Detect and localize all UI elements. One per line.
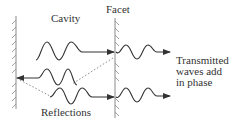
reflections-label: Reflections (41, 106, 91, 118)
facet (115, 18, 119, 118)
transmitted-label-line3: in phase (176, 77, 229, 88)
incident-wave-bottom (50, 88, 114, 104)
reflection-path-facet-to-middle (72, 58, 113, 84)
transmitted-wave-bottom (116, 88, 170, 102)
cavity-label: Cavity (51, 12, 80, 24)
laser-cavity-diagram: Cavity Facet Reflections Transmitted wav… (0, 0, 236, 127)
left-mirror (12, 16, 16, 109)
reflection-path-mirror-to-bottom (20, 80, 50, 96)
transmitted-label: Transmitted waves add in phase (176, 55, 229, 88)
incident-wave-top (36, 42, 114, 60)
transmitted-wave-top (116, 45, 170, 59)
reflected-wave-middle (17, 69, 77, 85)
facet-label: Facet (106, 3, 130, 15)
